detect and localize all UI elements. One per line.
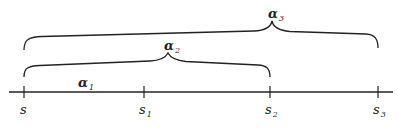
label-alpha2: α2 [164, 38, 180, 55]
brace-alpha3 [24, 21, 378, 50]
label-alpha1: α1 [78, 75, 94, 92]
interval-diagram: s s1 s2 s3 α1 α2 α3 [0, 0, 398, 132]
brace-alpha2 [24, 53, 270, 77]
label-s: s [20, 102, 27, 117]
label-s1: s1 [139, 102, 152, 119]
label-alpha3: α3 [268, 6, 284, 23]
label-s2: s2 [265, 102, 278, 119]
label-s3: s3 [373, 102, 386, 119]
diagram-svg: s s1 s2 s3 α1 α2 α3 [0, 0, 398, 132]
